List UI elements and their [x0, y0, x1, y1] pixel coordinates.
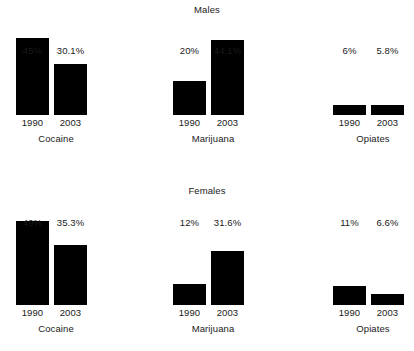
panel-females: Females 49% 35.3% 1990 2003 Cocaine 12% [0, 176, 414, 351]
year-label-2003: 2003 [203, 307, 252, 318]
plot-area: 45% 30.1% [8, 22, 104, 115]
plot-area: 49% 35.3% [8, 196, 104, 305]
plot-area: 6% 5.8% [325, 22, 414, 115]
year-label-2003: 2003 [203, 117, 252, 128]
bar-slot-1990: 20% [173, 22, 206, 115]
bar-slot-1990: 11% [333, 196, 366, 305]
bar-females-opiates-1990[interactable] [333, 286, 366, 305]
bar-males-opiates-2003[interactable] [371, 105, 404, 115]
bar-value-females-cocaine-2003: 35.3% [46, 217, 95, 228]
axis-years: 1990 2003 [8, 117, 104, 129]
year-label-2003: 2003 [46, 117, 95, 128]
axis-years: 1990 2003 [325, 307, 414, 319]
bar-slot-1990: 45% [16, 22, 49, 115]
bar-slot-2003: 6.6% [371, 196, 404, 305]
bar-slot-2003: 5.8% [371, 22, 404, 115]
bar-slot-2003: 30.1% [54, 22, 87, 115]
year-label-2003: 2003 [46, 307, 95, 318]
bar-females-cocaine-2003[interactable] [54, 245, 87, 305]
bar-slot-2003: 44.1% [211, 22, 244, 115]
plot-area: 20% 44.1% [165, 22, 261, 115]
axis-years: 1990 2003 [165, 307, 261, 319]
axis-years: 1990 2003 [8, 307, 104, 319]
plot-area: 12% 31.6% [165, 196, 261, 305]
bar-slot-1990: 12% [173, 196, 206, 305]
group-females-opiates: 11% 6.6% 1990 2003 Opiates [325, 176, 414, 351]
group-name-marijuana: Marijuana [165, 133, 261, 144]
bar-value-males-cocaine-2003: 30.1% [46, 45, 95, 56]
bar-females-marijuana-2003[interactable] [211, 251, 244, 305]
plot-area: 11% 6.6% [325, 196, 414, 305]
group-males-marijuana: 20% 44.1% 1990 2003 Marijuana [165, 0, 261, 176]
bar-males-cocaine-2003[interactable] [54, 64, 87, 116]
group-females-cocaine: 49% 35.3% 1990 2003 Cocaine [8, 176, 104, 351]
bar-females-opiates-2003[interactable] [371, 294, 404, 305]
group-name-marijuana: Marijuana [165, 323, 261, 334]
axis-years: 1990 2003 [165, 117, 261, 129]
bar-slot-2003: 35.3% [54, 196, 87, 305]
bar-slot-1990: 6% [333, 22, 366, 115]
group-name-opiates: Opiates [325, 133, 414, 144]
bar-value-females-opiates-2003: 6.6% [363, 217, 412, 228]
bar-males-marijuana-1990[interactable] [173, 81, 206, 115]
panel-males: Males 45% 30.1% 1990 2003 Cocaine 20% [0, 0, 414, 176]
bar-males-opiates-1990[interactable] [333, 105, 366, 115]
bar-value-males-opiates-2003: 5.8% [363, 45, 412, 56]
axis-years: 1990 2003 [325, 117, 414, 129]
group-males-cocaine: 45% 30.1% 1990 2003 Cocaine [8, 0, 104, 176]
group-name-cocaine: Cocaine [8, 323, 104, 334]
bar-slot-1990: 49% [16, 196, 49, 305]
bar-females-cocaine-1990[interactable] [16, 221, 49, 305]
bar-value-females-marijuana-2003: 31.6% [203, 217, 252, 228]
year-label-2003: 2003 [363, 117, 412, 128]
bar-slot-2003: 31.6% [211, 196, 244, 305]
bar-females-marijuana-1990[interactable] [173, 284, 206, 305]
group-females-marijuana: 12% 31.6% 1990 2003 Marijuana [165, 176, 261, 351]
group-name-cocaine: Cocaine [8, 133, 104, 144]
group-males-opiates: 6% 5.8% 1990 2003 Opiates [325, 0, 414, 176]
group-name-opiates: Opiates [325, 323, 414, 334]
bar-value-males-marijuana-2003: 44.1% [203, 45, 252, 56]
year-label-2003: 2003 [363, 307, 412, 318]
